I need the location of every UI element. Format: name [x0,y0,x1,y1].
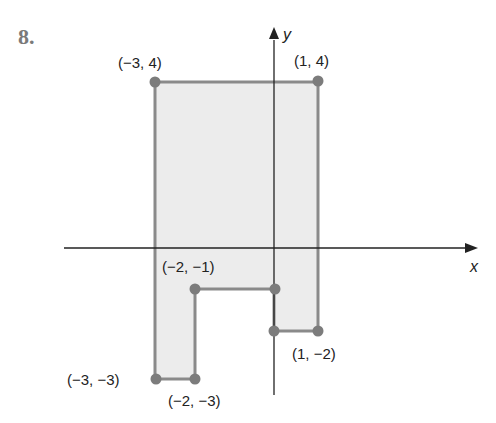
point-label: (−2, −1) [162,258,215,275]
y-axis-arrow-icon [269,27,279,39]
x-axis-label: x [469,258,479,275]
point-label: (1, −2) [292,345,336,362]
point-dot [269,326,280,337]
shaded-region [155,82,318,379]
point-label: (1, 4) [294,52,329,69]
point-dot [313,326,324,337]
coordinate-diagram: x y (−3, 4) (1, 4) (−2, −1) (1, −2) (−3,… [0,0,496,423]
x-axis-arrow-icon [465,243,478,253]
point-dot [151,374,162,385]
point-dot [150,77,161,88]
point-label: (−2, −3) [168,392,221,409]
point-label: (−3, −3) [67,371,120,388]
point-dot [190,374,201,385]
point-dot [270,284,281,295]
point-dot [190,284,201,295]
point-dot [313,76,324,87]
y-axis-label: y [282,26,292,43]
point-label: (−3, 4) [118,54,162,71]
